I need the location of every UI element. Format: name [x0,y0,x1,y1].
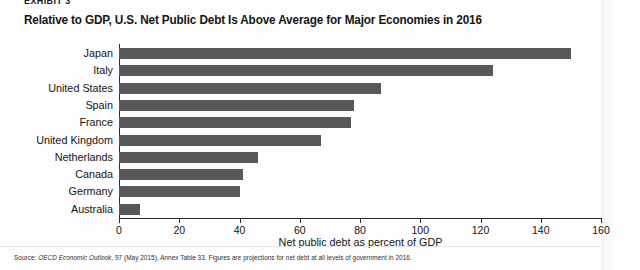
bar [119,117,351,128]
category-label: Japan [0,48,113,59]
x-tick-mark [420,219,421,223]
x-tick-label: 160 [581,224,621,236]
source-prefix: Source: [14,254,38,261]
x-tick-mark [300,219,301,223]
x-tick-label: 120 [461,224,501,236]
bar [119,100,354,111]
x-tick-mark [119,219,120,223]
x-tick-mark [541,219,542,223]
category-label: Germany [0,186,113,197]
bar-row [119,169,601,180]
x-tick-mark [360,219,361,223]
bar-row [119,152,601,163]
category-label: France [0,117,113,128]
bar-row [119,83,601,94]
x-tick-label: 140 [521,224,561,236]
x-tick-label: 40 [220,224,260,236]
category-label: Australia [0,204,113,215]
category-label: United Kingdom [0,135,113,146]
bar-row [119,135,601,146]
bar [119,186,240,197]
footer-divider [0,246,601,247]
category-label: Canada [0,169,113,180]
x-tick-mark [601,219,602,223]
bar [119,135,321,146]
x-tick-label: 100 [400,224,440,236]
source-publication: OECD Economic Outlook [38,254,111,261]
exhibit-label: EXHIBIT 3 [24,0,144,4]
bar [119,169,243,180]
category-label: Italy [0,65,113,76]
source-rest: , 97 (May 2015), Annex Table 33. Figures… [111,254,411,261]
bar [119,83,381,94]
bar [119,152,258,163]
bar-row [119,48,601,59]
x-tick-label: 0 [99,224,139,236]
x-tick-mark [240,219,241,223]
bar-row [119,100,601,111]
x-tick-mark [179,219,180,223]
source-note: Source: OECD Economic Outlook, 97 (May 2… [14,254,412,261]
plot-area [119,44,601,218]
chart-page: EXHIBIT 3 Relative to GDP, U.S. Net Publ… [0,0,640,270]
bar-row [119,204,601,215]
bar-row [119,117,601,128]
bar-row [119,65,601,76]
bar-row [119,186,601,197]
x-tick-label: 20 [159,224,199,236]
bar [119,204,140,215]
x-tick-mark [481,219,482,223]
bar [119,48,571,59]
x-tick-label: 60 [280,224,320,236]
category-label: Spain [0,100,113,111]
chart-title: Relative to GDP, U.S. Net Public Debt Is… [24,13,482,27]
x-tick-label: 80 [340,224,380,236]
category-label: United States [0,83,113,94]
bar [119,65,493,76]
category-label: Netherlands [0,152,113,163]
